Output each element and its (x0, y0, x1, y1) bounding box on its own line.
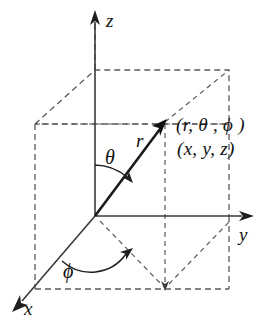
z-axis-label: z (106, 11, 113, 30)
projection-line-origin-to-point (100, 221, 161, 284)
theta-angle-label: θ (105, 147, 115, 167)
coordinate-system-svg (0, 0, 264, 330)
y-axis-label: y (239, 225, 247, 244)
spherical-coordinates-label: (r, θ , ϕ ) (176, 115, 245, 134)
spherical-coordinates-diagram: z y x r θ ϕ (r, θ , ϕ ) (x, y, z) (0, 0, 264, 330)
x-axis-label: x (24, 299, 32, 318)
phi-angle-label: ϕ (63, 261, 73, 281)
projection-line-point-to-y-axis (169, 222, 229, 284)
radial-vector-line (95, 129, 160, 216)
radial-vector-label: r (136, 131, 143, 150)
x-axis-line (22, 216, 95, 301)
cartesian-coordinates-label: (x, y, z) (177, 139, 235, 158)
